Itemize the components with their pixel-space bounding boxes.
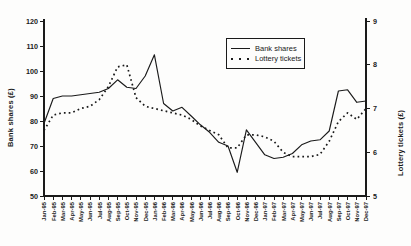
- x-tick-label: Mar-97: [281, 201, 287, 221]
- y-left-tick-label: 120: [26, 17, 38, 26]
- x-tick-label: Jul-95: [97, 201, 103, 219]
- x-tick-label: Mar-95: [60, 201, 66, 221]
- solid-line-swatch-icon: [231, 48, 250, 49]
- x-tick-label: May-97: [299, 201, 305, 222]
- x-tick-label: Nov-96: [244, 201, 250, 221]
- x-tick-label: Sep-95: [115, 201, 121, 221]
- x-tick-label: Jan-97: [262, 201, 268, 220]
- legend: Bank shares Lottery tickets: [226, 38, 305, 69]
- x-tick-label: Nov-97: [354, 201, 360, 221]
- x-tick-label: Apr-95: [69, 201, 75, 220]
- legend-item-bank-shares: Bank shares: [231, 45, 300, 53]
- y-left-tick-label: 100: [26, 67, 38, 76]
- x-tick-label: Oct-97: [345, 201, 351, 220]
- y-right-tick-label: 9: [373, 17, 377, 26]
- x-tick-label: Jan-95: [41, 201, 47, 220]
- x-tick-label: Dec-97: [363, 201, 369, 221]
- x-tick-label: May-95: [78, 201, 84, 222]
- x-tick-label: Apr-97: [290, 201, 296, 220]
- y-left-tick-label: 60: [30, 167, 38, 176]
- x-tick-label: Jul-96: [207, 201, 213, 219]
- x-tick-label: Feb-97: [271, 201, 277, 221]
- x-tick-label: Nov-95: [133, 201, 139, 221]
- y-axis-left: 5060708090100110120: [26, 17, 44, 201]
- y-right-tick-label: 7: [373, 104, 377, 113]
- dual-axis-line-chart: 506070809010011012056789Jan-95Feb-95Mar-…: [0, 0, 411, 246]
- dotted-line-swatch-icon: [231, 58, 250, 60]
- x-tick-label: Feb-96: [161, 201, 167, 221]
- x-tick-label: Jun-97: [308, 201, 314, 221]
- legend-label-bank-shares: Bank shares: [255, 45, 297, 53]
- series-lottery-tickets: [44, 65, 366, 157]
- x-tick-label: Jul-97: [317, 201, 323, 219]
- x-tick-label: May-96: [189, 201, 195, 222]
- y-left-tick-label: 50: [30, 192, 38, 201]
- x-tick-label: Jun-95: [87, 201, 93, 221]
- y-left-tick-label: 90: [30, 92, 38, 101]
- x-tick-label: Aug-97: [327, 201, 333, 222]
- x-tick-label: Mar-96: [170, 201, 176, 221]
- x-tick-label: Jun-96: [198, 201, 204, 221]
- y-right-tick-label: 8: [373, 60, 377, 69]
- legend-label-lottery-tickets: Lottery tickets: [255, 55, 301, 63]
- y-left-tick-label: 70: [30, 142, 38, 151]
- x-tick-label: Sep-97: [336, 201, 342, 221]
- x-tick-label: Oct-96: [235, 201, 241, 220]
- y-right-tick-label: 6: [373, 148, 377, 157]
- x-tick-label: Dec-96: [253, 201, 259, 221]
- x-tick-label: Jan-96: [152, 201, 158, 220]
- y-left-tick-label: 80: [30, 117, 38, 126]
- x-axis: Jan-95Feb-95Mar-95Apr-95May-95Jun-95Jul-…: [41, 196, 369, 222]
- x-tick-label: Aug-96: [216, 201, 222, 222]
- legend-item-lottery-tickets: Lottery tickets: [231, 55, 300, 63]
- left-axis-title: Bank shares (£): [6, 88, 15, 147]
- y-left-tick-label: 110: [26, 42, 38, 51]
- right-axis-title: Lottery tickets (£): [396, 110, 405, 176]
- x-tick-label: Sep-96: [225, 201, 231, 221]
- x-tick-label: Aug-95: [106, 201, 112, 222]
- x-tick-label: Oct-95: [124, 201, 130, 220]
- y-axis-right: 56789: [366, 17, 377, 201]
- x-tick-label: Dec-95: [143, 201, 149, 221]
- x-tick-label: Apr-96: [179, 201, 185, 220]
- axes: [44, 18, 366, 196]
- y-right-tick-label: 5: [373, 192, 377, 201]
- chart-canvas: 506070809010011012056789Jan-95Feb-95Mar-…: [0, 0, 411, 246]
- x-tick-label: Feb-95: [51, 201, 57, 221]
